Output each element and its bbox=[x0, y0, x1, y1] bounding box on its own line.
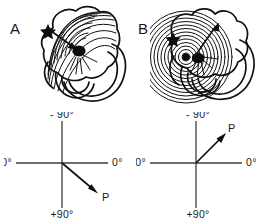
cardiac-activation-map-a bbox=[20, 4, 130, 108]
axis-label-bottom-a: +90° bbox=[50, 208, 73, 220]
polar-vector-diagram-a: - 90° 0° ±180° +90° P bbox=[4, 112, 130, 222]
p-vector-b bbox=[196, 133, 226, 163]
figure-container: A bbox=[0, 0, 263, 224]
panel-letter-a: A bbox=[10, 20, 21, 37]
p-vector-a bbox=[62, 163, 98, 194]
axis-cross-a bbox=[16, 121, 108, 208]
axis-label-left-b: ±180° bbox=[136, 156, 146, 168]
axis-label-bottom-b: +90° bbox=[186, 208, 209, 220]
p-vector-label-b: P bbox=[228, 122, 235, 134]
axis-cross-b bbox=[150, 121, 242, 208]
cardiac-activation-map-b bbox=[150, 4, 260, 108]
axis-label-right-b: 0° bbox=[246, 156, 257, 168]
axis-label-top-b: - 90° bbox=[186, 112, 210, 120]
panel-letter-b: B bbox=[138, 20, 149, 37]
p-vector-label-a: P bbox=[102, 191, 109, 203]
polar-vector-diagram-b: - 90° 0° ±180° +90° P bbox=[136, 112, 262, 222]
activation-focus-dot-b bbox=[182, 53, 189, 60]
axis-label-right-a: 0° bbox=[112, 156, 123, 168]
axis-label-left-a: ±180° bbox=[4, 156, 12, 168]
axis-label-top-a: - 90° bbox=[50, 112, 74, 120]
isochrone-lines-b bbox=[150, 11, 232, 103]
activation-blob-b bbox=[192, 53, 204, 63]
